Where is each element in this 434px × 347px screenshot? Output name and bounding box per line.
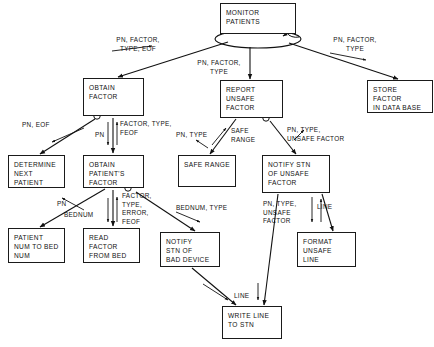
edge-label-factor-type-error-feof: FACTOR, TYPE, ERROR, FEOF — [122, 192, 168, 226]
edge-label-pn-factor-type-eof: PN, FACTOR, TYPE, EOF — [107, 36, 169, 53]
node-report-unsafe-factor[interactable]: REPORT UNSAFE FACTOR — [220, 80, 283, 118]
edge-label-pn-factor-type-right: PN, FACTOR, TYPE — [324, 36, 386, 53]
node-format-unsafe-line[interactable]: FORMAT UNSAFE LINE — [297, 232, 356, 267]
edge-notify-to-format — [322, 194, 333, 231]
edge-label-safe-range: SAFE RANGE — [231, 127, 263, 144]
edge-label-pn-type-unsafe-factor-2: PN, TYPE, UNSAFE FACTOR — [263, 200, 309, 226]
node-patient-num-to-bed-num[interactable]: PATIENT NUM TO BED NUM — [8, 228, 65, 263]
node-monitor-patients[interactable]: MONITOR PATIENTS — [220, 3, 296, 34]
node-notify-stn-unsafe[interactable]: NOTIFY STN OF UNSAFE FACTOR — [262, 155, 330, 193]
node-determine-next-patient[interactable]: DETERMINE NEXT PATIENT — [8, 155, 65, 188]
edge-label-bednum-type: BEDNUM, TYPE — [176, 204, 240, 213]
edge-label-pn-factor-type-mid: PN, FACTOR, TYPE — [189, 59, 249, 76]
node-notify-stn-bad-device[interactable]: NOTIFY STN OF BAD DEVICE — [160, 232, 220, 267]
node-store-factor-in-db[interactable]: STORE FACTOR IN DATA BASE — [367, 80, 433, 113]
diagram-canvas: MONITOR PATIENTS OBTAIN FACTOR REPORT UN… — [0, 0, 434, 347]
node-write-line-to-stn[interactable]: WRITE LINE TO STN — [222, 306, 282, 339]
node-obtain-patients-factor[interactable]: OBTAIN PATIENT'S FACTOR — [83, 155, 144, 188]
edge-label-pn-2: PN — [57, 200, 73, 209]
edge-label-bednum: BEDNUM — [64, 211, 102, 220]
edge-label-pn-eof: PN, EOF — [22, 121, 62, 130]
edge-bad-device-to-write-line — [192, 268, 236, 305]
edge-label-pn-type-unsafe-factor: PN, TYPE, UNSAFE FACTOR — [287, 126, 361, 143]
node-read-factor-from-bed[interactable]: READ FACTOR FROM BED — [83, 228, 140, 263]
edge-label-pn-type: PN, TYPE — [176, 131, 216, 140]
edge-label-line-right: LINE — [317, 203, 341, 212]
edge-label-pn-1: PN — [95, 131, 111, 140]
node-safe-range[interactable]: SAFE RANGE — [178, 155, 236, 187]
edge-label-line-bottom: LINE — [234, 292, 258, 301]
node-obtain-factor[interactable]: OBTAIN FACTOR — [83, 78, 144, 116]
